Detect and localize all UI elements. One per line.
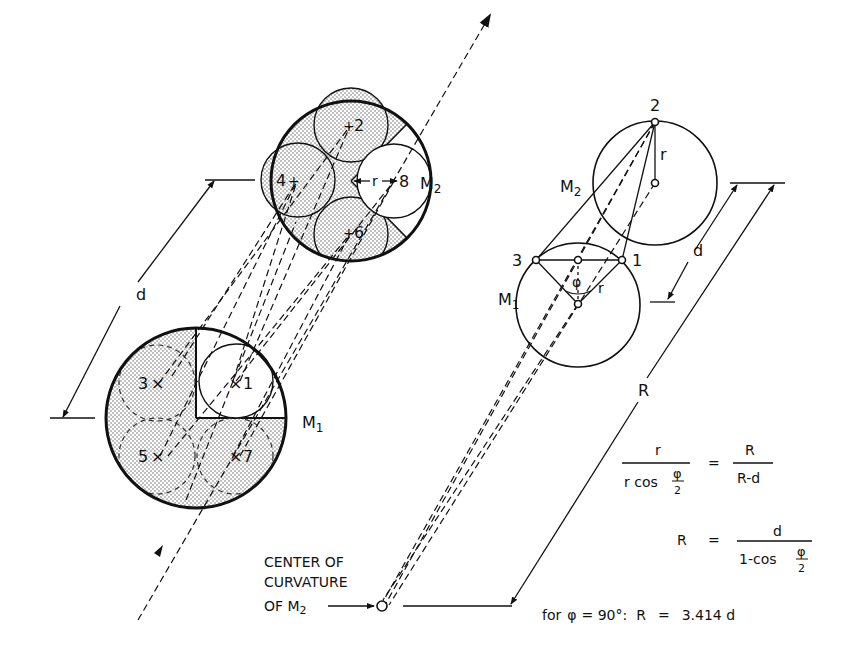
- radius-label-r-bottom: r: [598, 280, 604, 296]
- center-m2: [652, 180, 659, 187]
- eq2-lhs: R: [677, 532, 687, 548]
- eq1-lhs-den: r cos: [624, 474, 658, 490]
- eq1-phi: φ: [673, 466, 682, 481]
- mirror-m1-left: [106, 328, 286, 508]
- center-label-line3: OF M2: [264, 598, 307, 617]
- mirror-m1-label: M1: [302, 413, 323, 435]
- spot-label-1: 1: [243, 374, 253, 393]
- eq3: forφ= 90°:R=3.414 d: [542, 607, 735, 623]
- spot-label-4: 4: [276, 171, 286, 190]
- mirror-m2-right-label: M2: [560, 177, 581, 199]
- eq1-lhs-num: r: [655, 442, 661, 458]
- spot-label-5: 5: [138, 447, 148, 466]
- radius-label-r-top: r: [660, 145, 667, 164]
- center-label-line2: CURVATURE: [264, 574, 348, 590]
- distance-label-d: d: [136, 285, 146, 304]
- cross-marker: +: [288, 173, 300, 189]
- radius-label-r: r: [372, 173, 378, 189]
- spot-label-3: 3: [138, 374, 148, 393]
- eq2-rhs-den: 1-cos: [739, 551, 777, 567]
- point-label-2: 2: [650, 96, 660, 115]
- incoming-arrow-icon: [154, 545, 163, 557]
- cross-marker: ×: [151, 447, 164, 466]
- cross-marker: ×: [151, 374, 164, 393]
- center-label-line1: CENTER OF: [264, 554, 344, 570]
- equations: r r cos φ 2 = R R-d R = d 1-cos φ 2 forφ…: [542, 442, 812, 623]
- mirror-m2-label: M2: [420, 174, 441, 196]
- spot-label-6: 6: [354, 223, 364, 242]
- point-mid: [575, 257, 582, 264]
- center-m1: [575, 301, 582, 308]
- cross-marker: ×: [229, 374, 242, 393]
- eq2-phi: φ: [797, 544, 806, 559]
- spot-label-7: 7: [243, 447, 253, 466]
- spot-label-2: 2: [354, 116, 364, 135]
- eq2-two: 2: [798, 562, 805, 575]
- cross-marker: +: [343, 118, 355, 134]
- eq1-two: 2: [674, 484, 681, 497]
- optical-diagram: 2 + 4 + 6 + 8 r M2 3 × × 1 5 × × 7 M1 d: [0, 0, 855, 663]
- eq1-rhs-den: R-d: [737, 470, 760, 486]
- eq2-rhs-num: d: [773, 523, 782, 539]
- point-1: [619, 257, 626, 264]
- cross-marker: ×: [229, 447, 242, 466]
- eq2-equals: =: [708, 532, 720, 548]
- point-label-1: 1: [632, 251, 642, 270]
- point-label-3: 3: [512, 251, 522, 270]
- radius-label-R: R: [638, 381, 649, 400]
- point-3: [533, 257, 540, 264]
- point-2: [652, 119, 659, 126]
- spot-label-8: 8: [399, 172, 409, 191]
- center-of-curvature-point: [377, 601, 387, 611]
- eq1-equals: =: [708, 455, 720, 471]
- mirror-m1-right-label: M1: [498, 290, 519, 312]
- eq1-rhs-num: R: [745, 442, 755, 458]
- angle-label-phi: φ: [572, 274, 581, 290]
- distance-label-d-right: d: [693, 241, 703, 260]
- cross-marker: +: [343, 225, 355, 241]
